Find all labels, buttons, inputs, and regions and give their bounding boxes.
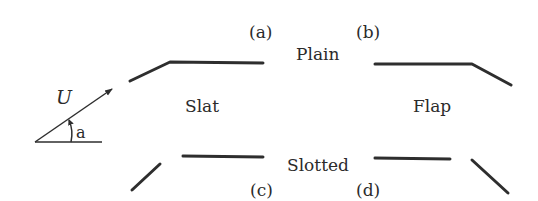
plain-flap-airfoil-segment	[375, 64, 511, 85]
flap-label: Flap	[413, 96, 451, 116]
diagram-canvas: U a (a) (b) Plain Slat Flap Slotted (c) …	[0, 0, 538, 201]
plain-label: Plain	[296, 44, 339, 64]
angle-arc-icon	[69, 120, 72, 142]
slotted-flap-main-body	[375, 158, 450, 159]
slotted-slat-main-body	[183, 156, 263, 157]
label-a: (a)	[249, 22, 272, 42]
label-b: (b)	[356, 22, 380, 42]
label-d: (d)	[356, 180, 380, 200]
slotted-label: Slotted	[287, 155, 349, 175]
slat-label: Slat	[185, 96, 219, 116]
plain-slat-airfoil-segment	[130, 62, 263, 81]
angle-label: a	[76, 123, 86, 142]
velocity-arrow-icon	[35, 89, 112, 142]
slotted-flap-element	[472, 160, 508, 193]
slotted-slat-element	[132, 164, 160, 190]
velocity-label: U	[56, 86, 73, 108]
label-c: (c)	[250, 180, 273, 200]
